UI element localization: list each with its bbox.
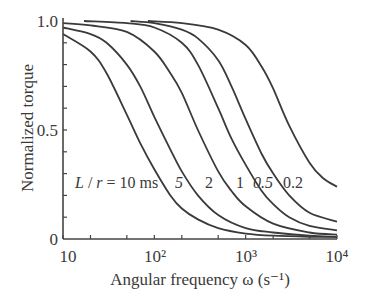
x-tick-label-10000: 10⁴ — [326, 247, 349, 266]
ticks — [63, 43, 337, 239]
chart: 1.0 0.5 0 10 10² 10³ 10⁴ Angular frequen… — [0, 0, 367, 294]
curve-5 — [63, 28, 337, 237]
x-tick-label-100: 10² — [144, 247, 166, 266]
curve-label: 0.2 — [283, 174, 303, 191]
y-tick-label-0.5: 0.5 — [37, 121, 58, 140]
x-axis-title: Angular frequency ω (s⁻¹) — [110, 270, 290, 289]
curve-label: 0.5 — [253, 174, 273, 191]
curve-label: 1 — [236, 174, 244, 191]
curve-label: 2 — [205, 174, 213, 191]
y-tick-label-1.0: 1.0 — [37, 12, 58, 31]
curve-1 — [84, 21, 337, 230]
curve-label: 5 — [175, 174, 183, 191]
x-tick-label-10: 10 — [60, 247, 77, 266]
y-axis-title: Normalized torque — [18, 64, 37, 192]
curve-label: L / r = 10 ms — [74, 174, 158, 191]
x-tick-label-1000: 10³ — [235, 247, 257, 266]
y-tick-label-0: 0 — [50, 230, 59, 249]
curves — [63, 21, 337, 237]
curve-0_5 — [131, 21, 337, 222]
